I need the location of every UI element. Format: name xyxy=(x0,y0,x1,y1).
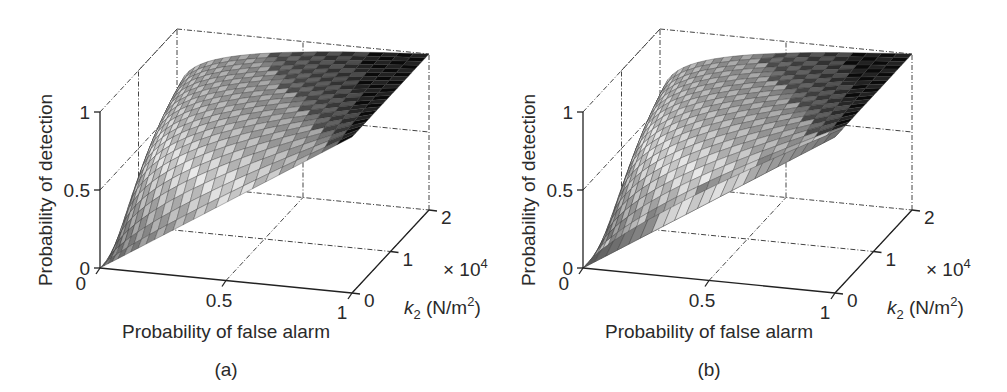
k2-scale-factor: × 104 xyxy=(443,256,488,280)
x-tick xyxy=(831,293,835,299)
x-tick xyxy=(579,268,583,274)
k-tick xyxy=(835,293,843,294)
z-tick-label: 1 xyxy=(79,102,90,123)
x-tick-label: 0 xyxy=(558,273,569,294)
x-tick-label: 1 xyxy=(820,302,831,323)
surface-plot-a: 00.5100.51012× 104k2 (N/m2)Probability o… xyxy=(0,0,500,392)
z-tick-label: 0.5 xyxy=(547,180,573,201)
k-tick xyxy=(874,252,882,253)
x-tick xyxy=(705,281,709,287)
k2-axis-label: k2 (N/m2) xyxy=(404,294,481,322)
k-tick xyxy=(352,293,360,294)
k2-tick-label: 2 xyxy=(441,207,452,228)
y-axis-label: Probability of detection xyxy=(518,94,539,286)
k2-axis-label: k2 (N/m2) xyxy=(887,294,964,322)
panel-label: (a) xyxy=(214,359,237,380)
panel-b: 00.5100.51012× 104k2 (N/m2)Probability o… xyxy=(483,0,1007,392)
x-tick xyxy=(96,268,100,274)
roc-surface xyxy=(100,52,429,268)
surface-plot-b: 00.5100.51012× 104k2 (N/m2)Probability o… xyxy=(483,0,1007,392)
k2-tick-label: 1 xyxy=(886,249,897,270)
x-tick-label: 0 xyxy=(75,273,86,294)
y-axis-label: Probability of detection xyxy=(35,94,56,286)
x-axis-label: Probability of false alarm xyxy=(605,321,813,342)
k2-tick-label: 1 xyxy=(403,249,414,270)
x-axis-label: Probability of false alarm xyxy=(122,321,330,342)
k-tick xyxy=(429,210,437,211)
x-tick xyxy=(348,293,352,299)
k-tick xyxy=(391,252,399,253)
x-tick-label: 0.5 xyxy=(206,290,232,311)
panel-a: 00.5100.51012× 104k2 (N/m2)Probability o… xyxy=(0,0,500,392)
z-tick-label: 0.5 xyxy=(64,180,90,201)
k-tick xyxy=(912,210,920,211)
x-tick xyxy=(222,281,226,287)
k2-scale-factor: × 104 xyxy=(926,256,971,280)
panel-label: (b) xyxy=(697,359,720,380)
k2-tick-label: 2 xyxy=(924,207,935,228)
k2-tick-label: 0 xyxy=(364,290,375,311)
x-tick-label: 1 xyxy=(337,302,348,323)
k2-tick-label: 0 xyxy=(847,290,858,311)
z-tick-label: 1 xyxy=(562,102,573,123)
x-tick-label: 0.5 xyxy=(689,290,715,311)
